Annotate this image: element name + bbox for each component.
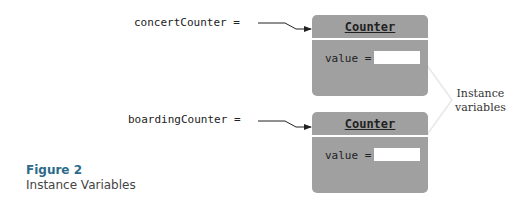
object-header: Counter bbox=[312, 112, 428, 137]
variable-concert-counter: concertCounter = bbox=[134, 16, 240, 29]
field-label: value = bbox=[325, 149, 371, 162]
annotation-line-1: Instance bbox=[455, 87, 506, 101]
reference-arrow-boarding bbox=[258, 121, 311, 127]
object-header: Counter bbox=[312, 15, 428, 40]
variable-boarding-counter: boardingCounter = bbox=[128, 113, 241, 126]
object-body: value = bbox=[312, 137, 428, 193]
object-body: value = bbox=[312, 40, 428, 96]
figure-subtitle: Instance Variables bbox=[26, 178, 136, 192]
field-label: value = bbox=[325, 52, 371, 65]
annotation-pointer bbox=[426, 64, 452, 136]
counter-object-1: Counter value = bbox=[312, 15, 428, 96]
class-name: Counter bbox=[345, 117, 396, 131]
counter-object-2: Counter value = bbox=[312, 112, 428, 193]
class-name: Counter bbox=[345, 20, 396, 34]
annotation-instance-variables: Instance variables bbox=[455, 87, 506, 115]
field-value-box bbox=[374, 51, 420, 64]
figure-title: Figure 2 bbox=[26, 163, 82, 177]
reference-arrow-concert bbox=[258, 23, 311, 29]
field-value-box bbox=[374, 148, 420, 161]
annotation-line-2: variables bbox=[455, 101, 506, 115]
